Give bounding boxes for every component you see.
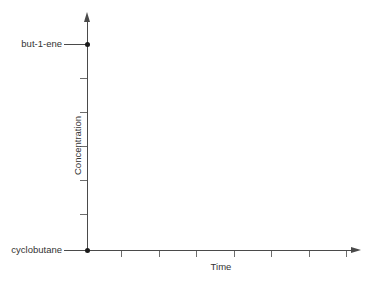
x-axis-title: Time (87, 261, 355, 272)
x-axis-arrowhead-icon (351, 247, 361, 253)
x-axis-tick (234, 251, 235, 257)
but-1-ene-marker (85, 42, 90, 47)
x-axis-tick (271, 251, 272, 257)
concentration-time-chart: but-1-ene cyclobutane Concentration Time (0, 0, 380, 291)
y-axis-line (87, 20, 88, 250)
y-axis-tick (80, 78, 87, 79)
x-axis-tick (159, 251, 160, 257)
but-1-ene-leader-line (64, 44, 87, 45)
cyclobutane-marker (85, 248, 90, 253)
x-axis-tick (121, 251, 122, 257)
x-axis-tick (309, 251, 310, 257)
x-axis-tick (346, 251, 347, 257)
x-axis-tick (196, 251, 197, 257)
y-axis-arrowhead-icon (84, 12, 90, 22)
y-axis-tick (80, 112, 87, 113)
but-1-ene-label: but-1-ene (21, 38, 62, 49)
y-axis-tick (80, 180, 87, 181)
y-axis-tick (80, 214, 87, 215)
cyclobutane-label: cyclobutane (11, 244, 62, 255)
cyclobutane-leader-line (64, 250, 87, 251)
y-axis-title: Concentration (72, 116, 83, 175)
x-axis-line (87, 250, 355, 251)
